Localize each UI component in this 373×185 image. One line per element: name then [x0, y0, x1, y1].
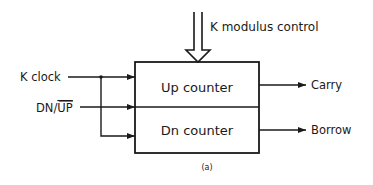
- dn-counter-label: Dn counter: [161, 123, 234, 138]
- k-clock-label: K clock: [20, 70, 61, 84]
- modulus-control-label: K modulus control: [210, 20, 319, 34]
- counter-block-diagram: K modulus control Up counter Dn counter …: [0, 0, 373, 185]
- figure-caption: (a): [201, 163, 212, 172]
- borrow-label: Borrow: [311, 123, 351, 137]
- carry-label: Carry: [311, 78, 342, 92]
- dn-up-label: DN/UP: [36, 101, 73, 115]
- modulus-bus-arrow: [186, 12, 210, 62]
- up-counter-label: Up counter: [161, 80, 234, 95]
